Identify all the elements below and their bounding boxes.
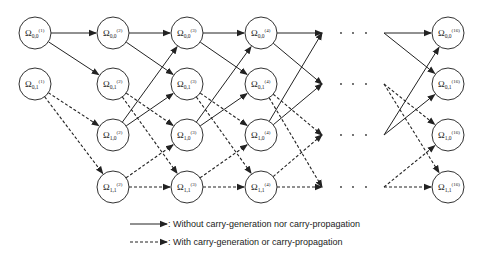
dashed-transition-arrow: [126, 145, 173, 178]
dashed-transition-arrow: [269, 98, 322, 187]
solid-transition-arrow: [126, 42, 173, 74]
solid-transition-arrow: [273, 43, 322, 84]
solid-transition-arrow: [200, 42, 247, 74]
node-omega-0-1-stage-2: Ω0,1(2): [97, 68, 129, 100]
legend-dashed-label: : With carry-generation or carry-propaga…: [168, 237, 343, 247]
node-omega-0-0-stage-5: Ω0,0(16): [432, 17, 464, 49]
ellipsis-dot: [340, 134, 342, 136]
ellipsis-dot: [340, 83, 342, 85]
dashed-transition-arrow: [273, 94, 322, 135]
node-omega-1-1-stage-5: Ω1,1(16): [432, 171, 464, 203]
dashed-transition-arrow: [45, 97, 103, 174]
dashed-transition-arrow: [200, 145, 247, 178]
dashed-transition-arrow: [384, 146, 435, 187]
ellipsis-dot: [340, 186, 342, 188]
nodes: Ω0,0(1)Ω0,1(1)Ω0,0(2)Ω0,1(2)Ω1,0(2)Ω1,1(…: [19, 17, 464, 203]
dashed-transition-arrow: [122, 97, 177, 173]
ellipsis-dot: [352, 186, 354, 188]
ellipsis-dot: [352, 134, 354, 136]
ellipsis-dot: [352, 83, 354, 85]
node-omega-0-0-stage-1: Ω0,0(1): [19, 17, 51, 49]
ellipsis-dot: [340, 32, 342, 34]
ellipsis-dot: [365, 83, 367, 85]
dashed-transition-arrow: [196, 97, 251, 173]
solid-transition-arrow: [384, 33, 435, 73]
node-omega-0-0-stage-2: Ω0,0(2): [97, 17, 129, 49]
node-omega-1-0-stage-4: Ω1,0(4): [245, 119, 277, 151]
dashed-transition-arrow: [273, 135, 322, 177]
ellipsis-dot: [365, 32, 367, 34]
node-omega-0-0-stage-4: Ω0,0(4): [245, 17, 277, 49]
ellipsis-dots: [340, 32, 367, 188]
node-omega-0-1-stage-4: Ω0,1(4): [245, 68, 277, 100]
solid-transition-arrow: [273, 84, 322, 125]
node-omega-0-1-stage-1: Ω0,1(1): [19, 68, 51, 100]
node-omega-0-0-stage-3: Ω0,0(3): [171, 17, 203, 49]
node-omega-1-0-stage-3: Ω1,0(3): [171, 119, 203, 151]
solid-transition-arrow: [384, 95, 435, 135]
ellipsis-dot: [365, 134, 367, 136]
node-omega-1-1-stage-2: Ω1,1(2): [97, 171, 129, 203]
dashed-transition-arrow: [384, 84, 435, 124]
ellipsis-dot: [365, 186, 367, 188]
node-omega-1-1-stage-4: Ω1,1(4): [245, 171, 277, 203]
ellipsis-dot: [352, 32, 354, 34]
edges: [45, 33, 439, 187]
node-omega-0-1-stage-3: Ω0,1(3): [171, 68, 203, 100]
node-omega-1-1-stage-3: Ω1,1(3): [171, 171, 203, 203]
legend-solid-label: : Without carry-generation nor carry-pro…: [168, 219, 360, 229]
node-omega-0-1-stage-5: Ω0,1(16): [432, 68, 464, 100]
solid-transition-arrow: [126, 94, 173, 126]
carry-state-transition-diagram: Ω0,0(1)Ω0,1(1)Ω0,0(2)Ω0,1(2)Ω1,0(2)Ω1,1(…: [0, 0, 481, 263]
node-omega-1-0-stage-2: Ω1,0(2): [97, 119, 129, 151]
dashed-transition-arrow: [48, 93, 98, 126]
legend: : Without carry-generation nor carry-pro…: [130, 219, 360, 247]
node-omega-1-0-stage-5: Ω1,0(16): [432, 119, 464, 151]
solid-transition-arrow: [200, 94, 247, 126]
solid-transition-arrow: [48, 42, 98, 75]
